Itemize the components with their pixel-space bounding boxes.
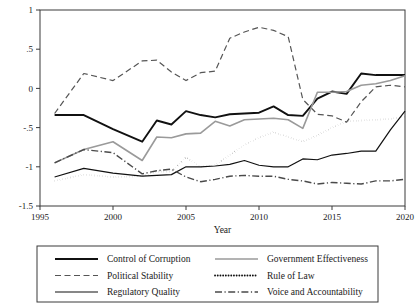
x-axis-title: Year [214, 225, 232, 235]
x-tick-label: 2010 [250, 212, 269, 222]
legend-label: Rule of Law [267, 271, 315, 281]
x-tick-label: 2000 [104, 212, 123, 222]
legend-label: Voice and Accountability [267, 287, 363, 297]
y-tick-label: -.5 [23, 123, 33, 133]
x-tick-label: 1995 [31, 212, 50, 222]
legend-label: Government Effectiveness [267, 254, 368, 264]
y-tick-label: .5 [26, 44, 33, 54]
y-tick-label: 1 [29, 5, 34, 15]
legend-label: Political Stability [107, 271, 173, 281]
y-tick-label: -1 [26, 162, 34, 172]
legend-label: Control of Corruption [107, 254, 191, 264]
y-tick-label: -1.5 [19, 201, 34, 211]
legend-label: Regulatory Quality [107, 287, 180, 297]
chart-root: 1.50-.5-1-1.5 199520002005201020152020 Y… [0, 0, 415, 305]
x-tick-label: 2015 [323, 212, 342, 222]
y-tick-label: 0 [29, 84, 34, 94]
x-tick-label: 2005 [177, 212, 196, 222]
x-tick-label: 2020 [396, 212, 415, 222]
governance-indicators-line-chart: 1.50-.5-1-1.5 199520002005201020152020 Y… [0, 0, 415, 305]
